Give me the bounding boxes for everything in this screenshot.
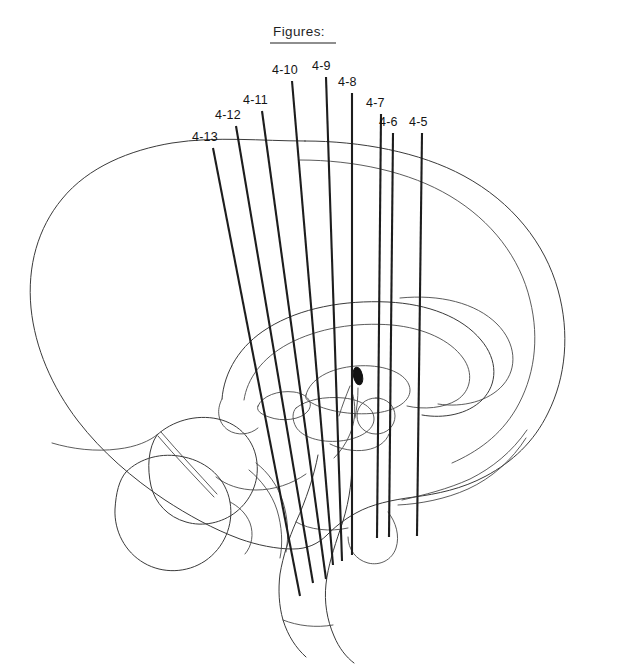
trajectory-track-4-5 (417, 133, 422, 536)
figure-canvas: Figures: (0, 0, 634, 664)
trajectory-label-4-13: 4-13 (192, 130, 218, 144)
tentorial-edge (52, 434, 158, 450)
basal-frontal-contour (402, 430, 527, 500)
trajectory-track-4-11 (262, 111, 326, 579)
cerebellar-primary-fissure-lower (161, 432, 217, 494)
cerebellum-group (52, 417, 288, 570)
trajectory-label-4-5: 4-5 (409, 115, 428, 129)
trajectory-label-4-6: 4-6 (379, 115, 398, 129)
figures-title-group: Figures: (270, 24, 336, 43)
cerebellar-primary-fissure-upper (158, 436, 214, 497)
trajectory-label-4-7: 4-7 (366, 96, 385, 110)
brain-schematic-diagram: Figures: (0, 0, 634, 664)
trajectory-label-4-11: 4-11 (243, 93, 268, 107)
page-title: Figures: (273, 24, 325, 39)
trajectory-label-layer: 4-134-124-114-104-94-84-74-64-5 (192, 59, 428, 144)
trajectory-label-4-12: 4-12 (215, 108, 241, 122)
cerebellum-superior-lobe (149, 417, 258, 524)
pineal-marker (352, 366, 365, 385)
electrode-trajectory-layer (213, 77, 422, 596)
cerebellum-inferior-lobe (115, 455, 231, 570)
cingulate-sulcus (400, 297, 513, 405)
trajectory-track-4-7 (377, 114, 381, 538)
trajectory-track-4-13 (213, 148, 300, 596)
medulla-transverse (283, 620, 333, 626)
fourth-ventricle-notch (230, 502, 252, 554)
trajectory-label-4-10: 4-10 (272, 63, 298, 77)
cerebellar-peduncle-b (249, 470, 282, 558)
inner-cortical-contour (300, 160, 535, 463)
trajectory-label-4-8: 4-8 (338, 75, 357, 89)
fibre-stroke-a (339, 386, 350, 416)
trajectory-label-4-9: 4-9 (312, 59, 331, 73)
trajectory-track-4-9 (326, 77, 342, 561)
trajectory-track-4-6 (389, 133, 393, 537)
